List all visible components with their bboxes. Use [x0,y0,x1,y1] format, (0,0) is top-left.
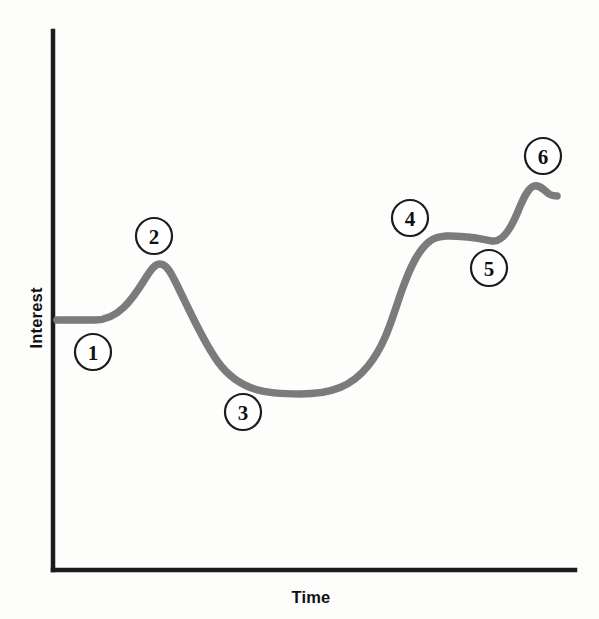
marker-2-label: 2 [149,225,160,249]
marker-1-group[interactable]: 1 [75,334,111,370]
marker-6-group[interactable]: 6 [525,138,561,174]
marker-4-group[interactable]: 4 [392,200,428,236]
marker-3-group[interactable]: 3 [225,394,261,430]
marker-2-group[interactable]: 2 [136,218,172,254]
hype-cycle-figure: 1 2 3 4 5 6 Interest Time [0,0,599,619]
interest-curve [57,186,557,394]
marker-5-label: 5 [484,257,495,281]
marker-6-label: 6 [538,145,549,169]
y-axis-title: Interest [27,287,45,349]
marker-3-label: 3 [238,401,249,425]
marker-5-group[interactable]: 5 [471,250,507,286]
hype-cycle-svg: 1 2 3 4 5 6 Interest Time [0,0,599,619]
marker-4-label: 4 [405,207,416,231]
marker-1-label: 1 [88,341,99,365]
x-axis-title: Time [291,588,330,606]
